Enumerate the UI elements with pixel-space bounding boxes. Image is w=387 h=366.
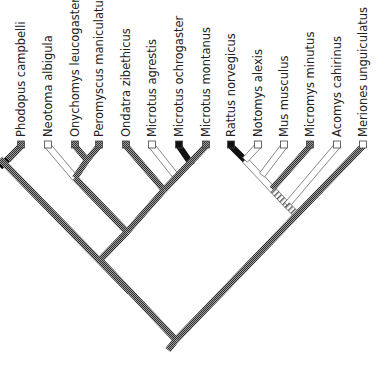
branch-checkered bbox=[174, 144, 366, 342]
phylogenetic-tree: Phodopus campbelliNeotoma albigulaOnycho… bbox=[0, 0, 387, 366]
tip-marker-open bbox=[255, 141, 262, 148]
tip-marker-open bbox=[281, 141, 288, 148]
taxon-labels: Phodopus campbelliNeotoma albigulaOnycho… bbox=[14, 0, 370, 137]
tip-marker-black bbox=[228, 141, 235, 148]
taxon-label: Phodopus campbelli bbox=[14, 21, 28, 137]
branch-checkered bbox=[72, 158, 89, 180]
branch-open bbox=[149, 144, 177, 177]
branch-checkered bbox=[125, 188, 167, 234]
taxon-label: Mus musculus bbox=[277, 56, 291, 137]
tip-marker-open bbox=[360, 141, 367, 148]
tip-markers bbox=[18, 141, 367, 148]
taxon-label: Notomys alexis bbox=[251, 49, 265, 137]
branch-open bbox=[46, 144, 78, 180]
tip-marker-checkered bbox=[307, 141, 314, 148]
tip-marker-checkered bbox=[18, 141, 25, 148]
taxon-label: Acomys cahirinus bbox=[330, 36, 344, 137]
tip-marker-black bbox=[176, 141, 183, 148]
tip-marker-open bbox=[45, 141, 52, 148]
taxon-label: Neotoma albigula bbox=[41, 35, 55, 137]
tip-marker-checkered bbox=[203, 141, 210, 148]
tip-marker-checkered bbox=[72, 141, 79, 148]
tip-marker-checkered bbox=[123, 141, 130, 148]
taxon-label: Meriones unguiculatus bbox=[356, 7, 370, 137]
taxon-label: Microtus montanus bbox=[199, 27, 213, 137]
taxon-label: Rattus norvegicus bbox=[224, 33, 238, 137]
branch-open bbox=[259, 144, 286, 177]
tip-marker-open bbox=[149, 141, 156, 148]
taxon-label: Microtus agrestis bbox=[145, 39, 159, 137]
branch-checkered bbox=[73, 176, 130, 234]
tip-marker-open bbox=[334, 141, 341, 148]
taxon-label: Microtus ochrogaster bbox=[172, 16, 186, 137]
taxon-label: Onychomys leucogaster bbox=[68, 0, 82, 137]
branch-checkered bbox=[98, 258, 179, 342]
taxon-label: Micromys minutus bbox=[303, 32, 317, 137]
branch-checkered bbox=[98, 230, 130, 262]
taxon-label: Ondatra zibethicus bbox=[119, 28, 133, 137]
branches bbox=[0, 144, 365, 352]
tip-marker-checkered bbox=[96, 141, 103, 148]
taxon-label: Peromyscus maniculatus bbox=[92, 0, 106, 137]
